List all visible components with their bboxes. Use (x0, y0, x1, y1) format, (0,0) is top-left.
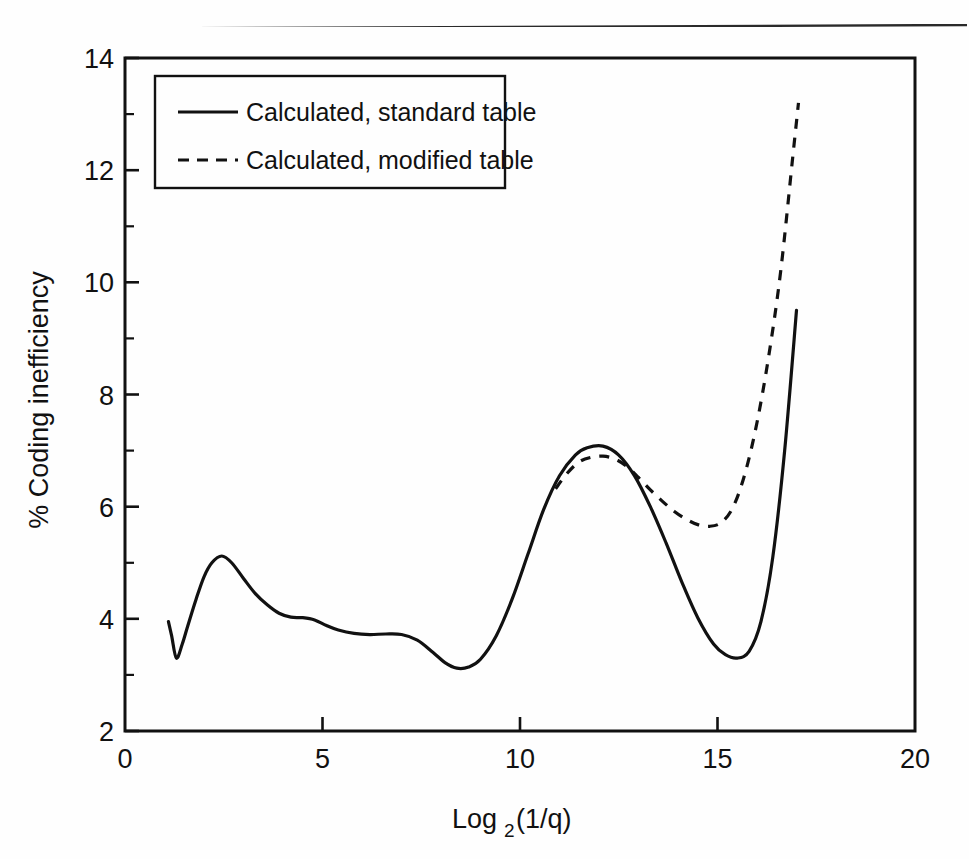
y-axis-title-text: % Coding inefficiency (24, 271, 54, 529)
legend-box: Calculated, standard table Calculated, m… (155, 76, 536, 188)
x-axis-title-subscript: 2 (504, 820, 515, 841)
x-axis-title-base: Log (452, 804, 497, 834)
y-tick-label: 2 (99, 717, 114, 747)
y-axis-title: % Coding inefficiency (24, 271, 54, 529)
x-axis-major-ticks (323, 717, 718, 731)
x-tick-label: 20 (900, 744, 930, 774)
x-tick-label: 10 (505, 744, 535, 774)
y-tick-label: 8 (99, 381, 114, 411)
y-tick-label: 10 (84, 268, 114, 298)
x-tick-label: 15 (702, 744, 732, 774)
y-tick-label: 6 (99, 493, 114, 523)
x-axis-title-tail: (1/q) (516, 804, 572, 834)
y-tick-label: 14 (84, 44, 114, 74)
y-axis-major-ticks (125, 58, 139, 731)
y-tick-labels: 2 4 6 8 10 12 14 (84, 44, 114, 747)
x-tick-label: 0 (117, 744, 132, 774)
y-tick-label: 12 (84, 156, 114, 186)
x-tick-label: 5 (315, 744, 330, 774)
x-tick-labels: 0 5 10 15 20 (117, 744, 930, 774)
legend-label-modified: Calculated, modified table (246, 146, 534, 174)
x-axis-title: Log 2 (1/q) (452, 804, 572, 841)
chart-figure: 2 4 6 8 10 12 14 0 5 10 15 20 % Coding i… (0, 0, 969, 859)
chart-svg: 2 4 6 8 10 12 14 0 5 10 15 20 % Coding i… (0, 0, 969, 859)
legend-label-standard: Calculated, standard table (246, 98, 536, 126)
y-tick-label: 4 (99, 605, 114, 635)
series-line-modified-table (556, 103, 799, 527)
figure-page: 2 4 6 8 10 12 14 0 5 10 15 20 % Coding i… (0, 0, 969, 859)
series-line-standard-table (168, 310, 796, 668)
